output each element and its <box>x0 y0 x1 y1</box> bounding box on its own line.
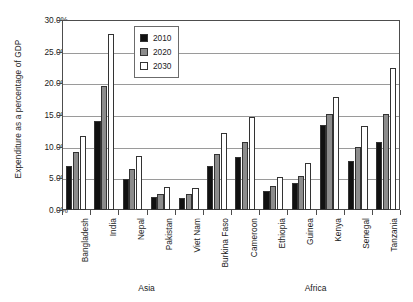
x-tick-mark <box>62 210 63 215</box>
bar-pakistan-2010 <box>151 197 157 210</box>
bar-pakistan-2020 <box>157 194 163 210</box>
x-tick-mark <box>344 210 345 215</box>
bar-group <box>287 20 315 210</box>
category-label: Kenya <box>333 218 343 242</box>
legend-item-2030: 2030 <box>140 59 171 73</box>
bar-group <box>231 20 259 210</box>
category-label: Viet Nam <box>192 218 202 252</box>
bar-guinea-2010 <box>292 183 298 210</box>
category-label: India <box>108 218 118 236</box>
bar-senegal-2020 <box>355 147 361 210</box>
bar-group <box>344 20 372 210</box>
legend-item-2020: 2020 <box>140 45 171 59</box>
bar-viet-nam-2020 <box>186 194 192 210</box>
x-tick-mark <box>287 210 288 215</box>
bar-group <box>316 20 344 210</box>
bar-senegal-2010 <box>348 161 354 210</box>
bar-kenya-2020 <box>326 114 332 210</box>
legend-swatch-icon <box>140 62 148 70</box>
bar-nepal-2030 <box>136 156 142 210</box>
bar-nepal-2010 <box>123 179 129 210</box>
x-tick-mark <box>400 210 401 215</box>
bar-india-2010 <box>94 121 100 210</box>
x-tick-mark <box>372 210 373 215</box>
category-label: Tanzania <box>389 218 399 252</box>
bar-guinea-2030 <box>305 163 311 210</box>
bar-cameroon-2020 <box>242 142 248 210</box>
y-axis-title: Expenditure as a percentage of GDP <box>13 9 23 209</box>
legend-swatch-icon <box>140 34 148 42</box>
bar-tanzania-2020 <box>383 114 389 210</box>
category-label: Bangladesh <box>80 218 90 262</box>
bar-bangladesh-2010 <box>66 166 72 210</box>
bar-pakistan-2030 <box>164 187 170 210</box>
bar-burkina-faso-2020 <box>214 154 220 210</box>
x-tick-mark <box>203 210 204 215</box>
x-tick-mark <box>175 210 176 215</box>
region-label-africa: Africa <box>305 283 327 293</box>
bar-bangladesh-2030 <box>80 136 86 210</box>
bar-ethiopia-2030 <box>277 177 283 210</box>
bar-group <box>62 20 90 210</box>
category-label: Nepal <box>136 218 146 240</box>
x-tick-mark <box>231 210 232 215</box>
category-label: Ethiopia <box>277 218 287 248</box>
legend-label: 2010 <box>153 33 171 43</box>
bar-burkina-faso-2010 <box>207 166 213 210</box>
bars-layer <box>62 20 400 210</box>
bar-group <box>259 20 287 210</box>
bar-ethiopia-2010 <box>263 191 269 210</box>
bar-kenya-2030 <box>333 97 339 210</box>
bar-tanzania-2030 <box>390 68 396 210</box>
legend-swatch-icon <box>140 48 148 56</box>
legend: 201020202030 <box>134 26 179 78</box>
x-tick-mark <box>259 210 260 215</box>
bar-tanzania-2010 <box>376 142 382 210</box>
legend-item-2010: 2010 <box>140 31 171 45</box>
bar-india-2030 <box>108 34 114 210</box>
x-tick-mark <box>90 210 91 215</box>
bar-senegal-2030 <box>361 126 367 210</box>
category-label: Pakistan <box>164 218 174 250</box>
bar-india-2020 <box>101 86 107 210</box>
category-label: Senegal <box>361 218 371 249</box>
bar-nepal-2020 <box>129 169 135 210</box>
x-tick-mark <box>147 210 148 215</box>
x-tick-mark <box>118 210 119 215</box>
legend-label: 2030 <box>153 61 171 71</box>
x-tick-mark <box>316 210 317 215</box>
bar-group <box>372 20 400 210</box>
bar-chart: Expenditure as a percentage of GDP 0.0%5… <box>0 0 413 302</box>
bar-cameroon-2010 <box>235 157 241 210</box>
bar-bangladesh-2020 <box>73 152 79 210</box>
legend-label: 2020 <box>153 47 171 57</box>
bar-guinea-2020 <box>298 176 304 210</box>
bar-ethiopia-2020 <box>270 186 276 210</box>
bar-viet-nam-2010 <box>179 198 185 210</box>
bar-group <box>203 20 231 210</box>
bar-viet-nam-2030 <box>192 188 198 210</box>
bar-kenya-2010 <box>320 125 326 210</box>
bar-cameroon-2030 <box>249 117 255 210</box>
bar-burkina-faso-2030 <box>221 133 227 210</box>
region-label-asia: Asia <box>138 283 155 293</box>
category-label: Cameroon <box>249 218 259 257</box>
category-label: Burkina Faso <box>220 218 230 267</box>
category-label: Guinea <box>305 218 315 245</box>
bar-group <box>90 20 118 210</box>
